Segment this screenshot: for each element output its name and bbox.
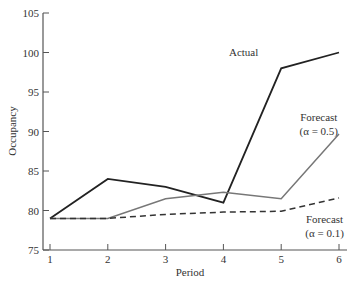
y-tick-label: 80	[28, 205, 40, 217]
annotation-label: (α = 0.1)	[305, 227, 344, 240]
annotations: ActualForecast(α = 0.5)Forecast(α = 0.1)	[229, 46, 344, 240]
y-tick-label: 85	[28, 165, 40, 177]
series-line-2	[50, 198, 339, 219]
annotation-label: Actual	[229, 46, 258, 58]
annotation-label: Forecast	[306, 213, 343, 225]
x-tick-label: 4	[221, 253, 227, 265]
x-tick-label: 1	[47, 253, 53, 265]
x-tick-label: 2	[105, 253, 111, 265]
annotation-label: Forecast	[300, 111, 337, 123]
axes: 7580859095100105123456	[23, 7, 348, 265]
series-line-1	[50, 134, 339, 219]
x-tick-label: 3	[163, 253, 169, 265]
y-tick-label: 75	[28, 244, 40, 256]
series-group	[50, 53, 339, 219]
annotation-label: (α = 0.5)	[299, 125, 338, 138]
series-line-0	[50, 53, 339, 219]
x-axis-label: Period	[176, 266, 205, 278]
y-tick-label: 95	[28, 86, 40, 98]
y-tick-label: 105	[23, 7, 40, 19]
x-tick-label: 6	[336, 253, 342, 265]
x-tick-label: 5	[278, 253, 284, 265]
occupancy-line-chart: 7580859095100105123456 ActualForecast(α …	[0, 0, 353, 283]
y-axis-label: Occupancy	[6, 106, 18, 156]
y-tick-label: 100	[23, 47, 40, 59]
y-tick-label: 90	[28, 126, 40, 138]
